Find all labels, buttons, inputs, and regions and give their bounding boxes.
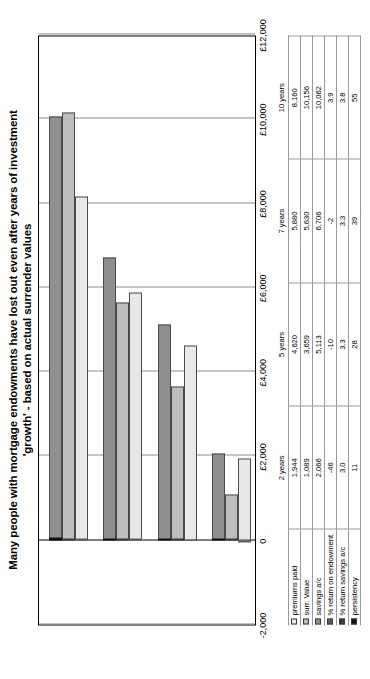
legend-swatch-icon (303, 618, 309, 624)
table-row: persistency11283955 (348, 36, 360, 626)
table-cell: 11 (348, 406, 360, 529)
bar (49, 116, 62, 540)
bar (75, 196, 88, 540)
legend-swatch-icon (339, 618, 345, 624)
table-row: premiums paid1,9444,6205,8808,160 (288, 36, 300, 626)
bar (238, 540, 251, 542)
bar (171, 386, 184, 540)
table-cell: 39 (348, 159, 360, 282)
table-row: % return savings a/c3.03.33.33.8 (336, 36, 348, 626)
table-corner-cell (276, 529, 288, 625)
axis-tick-label: £6,000 (258, 274, 268, 302)
table-header-row: 2 years5 years7 years10 years (276, 36, 288, 626)
bar (103, 538, 116, 540)
axis-tick-label: £2,000 (258, 443, 268, 471)
table-column-header: 5 years (276, 282, 288, 405)
bar (129, 292, 142, 540)
plot-area (38, 35, 256, 625)
table-row: savings a/c2,0665,1136,70610,062 (312, 36, 324, 626)
axis-tick-label: 0 (258, 538, 268, 543)
table-cell: 10,062 (312, 36, 324, 159)
data-table-body: 2 years5 years7 years10 yearspremiums pa… (276, 36, 360, 626)
table-cell: 4,620 (288, 282, 300, 405)
table-row: % return on endowment-46-10-23.9 (324, 36, 336, 626)
bar (158, 538, 171, 540)
bar (116, 302, 129, 539)
table-cell: -10 (324, 282, 336, 405)
legend-item-label: % return on endowment (324, 529, 336, 625)
gridline (39, 33, 255, 34)
table-cell: 8,160 (288, 36, 300, 159)
table-cell: 3.9 (324, 36, 336, 159)
legend-item-label: persistency (348, 529, 360, 625)
legend-swatch-icon (351, 618, 357, 624)
table-cell: 3,659 (300, 282, 312, 405)
legend-swatch-icon (291, 618, 297, 624)
legend-item-label: savings a/c (312, 529, 324, 625)
bar (225, 494, 238, 540)
data-table-grid: 2 years5 years7 years10 yearspremiums pa… (276, 35, 361, 625)
value-axis-labels: -2,0000£2,000£4,000£6,000£8,000£10,000£1… (258, 35, 274, 625)
table-cell: 5,630 (300, 159, 312, 282)
bar (212, 538, 225, 540)
table-cell: 2,066 (312, 406, 324, 529)
table-column-header: 2 years (276, 406, 288, 529)
chart-title-line-2: 'growth' - based on actual surrender val… (20, 0, 34, 679)
axis-tick-label: £4,000 (258, 358, 268, 386)
table-cell: 28 (348, 282, 360, 405)
legend-item-label: surr. Value (300, 529, 312, 625)
table-cell: 5,880 (288, 159, 300, 282)
chart-figure: Many people with mortgage endowments hav… (0, 0, 370, 679)
table-cell: 3.3 (336, 159, 348, 282)
bar (62, 538, 75, 540)
table-cell: -46 (324, 406, 336, 529)
chart-title-line-1: Many people with mortgage endowments hav… (6, 0, 20, 679)
bar-group (203, 36, 258, 624)
bar (62, 112, 75, 540)
table-column-header: 7 years (276, 159, 288, 282)
chart-title: Many people with mortgage endowments hav… (6, 0, 34, 679)
table-cell: 1,089 (300, 406, 312, 529)
table-cell: 5,113 (312, 282, 324, 405)
bar (171, 538, 184, 540)
bar (184, 345, 197, 540)
bar (75, 538, 88, 540)
table-column-header: 10 years (276, 36, 288, 159)
table-cell: 10,156 (300, 36, 312, 159)
bar (49, 537, 62, 539)
bar (103, 257, 116, 540)
table-cell: -2 (324, 159, 336, 282)
bar (184, 539, 197, 541)
bar (116, 538, 129, 540)
table-row: surr. Value1,0893,6595,63010,156 (300, 36, 312, 626)
axis-tick-label: £12,000 (258, 19, 268, 52)
legend-swatch-icon (327, 618, 333, 624)
table-cell: 3.8 (336, 36, 348, 159)
bar-group (94, 36, 149, 624)
axis-tick-label: -2,000 (258, 612, 268, 638)
bar (129, 538, 142, 540)
bar (212, 453, 225, 540)
axis-tick-label: £10,000 (258, 103, 268, 136)
table-cell: 3.3 (336, 282, 348, 405)
table-cell: 55 (348, 36, 360, 159)
table-cell: 1,944 (288, 406, 300, 529)
bar (225, 538, 238, 540)
bar (238, 458, 251, 540)
axis-tick-label: £8,000 (258, 190, 268, 218)
legend-swatch-icon (315, 618, 321, 624)
bar-group (148, 36, 203, 624)
rotated-chart-wrapper: Many people with mortgage endowments hav… (0, 0, 370, 679)
data-table: 2 years5 years7 years10 yearspremiums pa… (276, 35, 362, 625)
bar-group (39, 36, 94, 624)
legend-item-label: premiums paid (288, 529, 300, 625)
bar (158, 324, 171, 539)
table-cell: 3.0 (336, 406, 348, 529)
table-cell: 6,706 (312, 159, 324, 282)
legend-item-label: % return savings a/c (336, 529, 348, 625)
